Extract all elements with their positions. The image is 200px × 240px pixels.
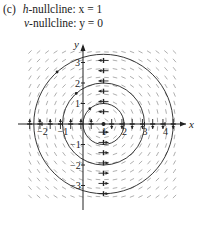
- field-segment: [164, 195, 167, 198]
- x-tick-label: −2: [37, 126, 48, 137]
- field-segment: [54, 67, 57, 70]
- field-segment: [29, 178, 32, 182]
- field-segment: [46, 169, 49, 173]
- field-segment: [87, 153, 91, 155]
- field-segment: [173, 195, 176, 198]
- field-segment: [139, 187, 143, 189]
- field-segment: [157, 143, 159, 147]
- field-segment: [122, 101, 125, 104]
- field-segment: [156, 161, 159, 165]
- field-segment: [174, 101, 175, 105]
- arrowhead-icon: [49, 119, 52, 122]
- field-segment: [147, 59, 151, 62]
- field-segment: [113, 110, 116, 113]
- field-segment: [63, 143, 65, 147]
- arrowhead-icon: [69, 119, 72, 122]
- field-segment: [37, 67, 40, 71]
- field-segment: [96, 136, 100, 138]
- field-segment: [62, 170, 66, 173]
- field-segment: [147, 51, 151, 53]
- field-segment: [62, 195, 66, 197]
- field-segment: [37, 178, 40, 181]
- field-segment: [156, 187, 160, 190]
- field-segment: [140, 109, 141, 113]
- field-segment: [165, 76, 168, 80]
- x-axis-label: x: [188, 118, 194, 130]
- field-segment: [130, 170, 134, 172]
- arrowhead-icon: [28, 119, 31, 122]
- field-segment: [87, 179, 91, 180]
- field-segment: [55, 109, 56, 113]
- field-segment: [139, 170, 143, 173]
- field-segment: [164, 59, 167, 62]
- field-segment: [148, 143, 150, 147]
- field-segment: [147, 195, 151, 197]
- field-segment: [28, 59, 31, 62]
- field-segment: [29, 152, 31, 156]
- y-tick-label: −1: [70, 139, 81, 150]
- field-segment: [156, 67, 159, 70]
- field-segment: [37, 195, 40, 198]
- field-segment: [173, 186, 176, 189]
- field-segment: [37, 169, 40, 173]
- field-segment: [54, 195, 58, 198]
- field-segment: [54, 169, 57, 172]
- x-axis-arrow-icon: [180, 122, 186, 127]
- field-segment: [113, 179, 118, 180]
- field-segment: [96, 154, 101, 155]
- arrowhead-icon: [99, 59, 102, 62]
- field-segment: [130, 85, 134, 88]
- field-segment: [72, 126, 73, 131]
- field-segment: [29, 101, 30, 105]
- field-segment: [80, 109, 82, 113]
- field-segment: [131, 101, 134, 105]
- field-segment: [164, 67, 167, 70]
- y-tick-label: 1: [75, 98, 80, 109]
- curve-direction-arrow-icon: [88, 107, 91, 110]
- field-segment: [46, 76, 49, 80]
- field-segment: [96, 145, 100, 146]
- field-segment: [148, 93, 151, 97]
- field-segment: [174, 143, 175, 147]
- field-segment: [139, 152, 142, 156]
- field-segment: [46, 152, 48, 156]
- field-segment: [147, 187, 151, 190]
- field-segment: [72, 118, 73, 123]
- field-segment: [87, 188, 91, 189]
- field-segment: [79, 93, 83, 96]
- field-segment: [173, 50, 176, 53]
- field-segment: [37, 186, 40, 189]
- arrowhead-icon: [90, 119, 93, 122]
- field-segment: [174, 92, 176, 96]
- field-segment: [165, 169, 168, 173]
- field-segment: [38, 152, 40, 156]
- field-segment: [37, 76, 40, 80]
- field-segment: [156, 51, 160, 54]
- field-segment: [87, 68, 91, 69]
- field-segment: [28, 186, 31, 189]
- field-segment: [131, 144, 134, 148]
- field-segment: [29, 76, 31, 80]
- field-segment: [166, 109, 167, 114]
- field-segment: [113, 52, 118, 53]
- field-segment: [71, 76, 75, 79]
- curve-direction-arrow-icon: [56, 71, 59, 74]
- field-segment: [130, 178, 134, 180]
- field-segment: [87, 52, 92, 53]
- curve-direction-arrow-icon: [75, 92, 78, 95]
- field-segment: [62, 59, 66, 61]
- field-segment: [174, 135, 175, 140]
- arrowhead-icon: [106, 131, 109, 134]
- field-segment: [138, 195, 142, 197]
- field-segment: [28, 50, 31, 53]
- arrowhead-icon: [151, 126, 154, 129]
- field-segment: [164, 178, 167, 181]
- field-segment: [96, 102, 100, 103]
- field-segment: [165, 101, 166, 105]
- field-segment: [113, 60, 118, 61]
- field-segment: [87, 196, 92, 197]
- field-segment: [131, 109, 133, 113]
- field-segment: [121, 196, 125, 197]
- field-segment: [121, 187, 125, 188]
- field-segment: [173, 67, 176, 71]
